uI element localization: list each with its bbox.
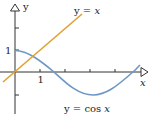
chart-plot: y x 1 1 y = x y = cos x: [0, 0, 152, 125]
x-axis-arrow-icon: [141, 68, 148, 77]
y-tick-label-1: 1: [5, 45, 11, 56]
x-axis-label: x: [140, 77, 146, 88]
identity-label-prefix: y =: [73, 5, 94, 16]
cos-label-var: x: [104, 103, 110, 114]
cos-label-prefix: y = cos: [63, 103, 104, 114]
cos-curve: [15, 51, 140, 96]
cos-curve-label: y = cos x: [63, 103, 110, 114]
y-axis-label: y: [22, 1, 29, 12]
y-axis-arrow-icon: [11, 4, 20, 11]
x-tick-label-1: 1: [38, 74, 44, 85]
identity-line-label: y = x: [73, 5, 100, 16]
identity-label-var: x: [94, 5, 100, 16]
